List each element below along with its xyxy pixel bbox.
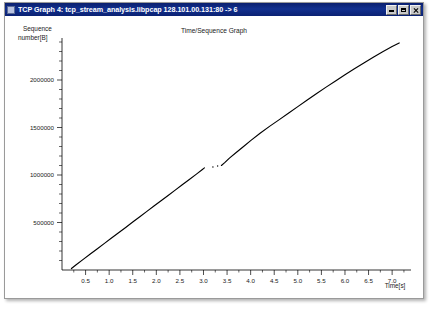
x-tick-label: 2.0 [152,277,161,284]
window-title: TCP Graph 4: tcp_stream_analysis.libpcap… [18,3,386,16]
x-axis-label: Time[s] [385,282,406,290]
minimize-button[interactable] [386,5,397,15]
y-tick-label: 2000000 [30,76,55,83]
y-tick-label: 1000000 [30,171,55,178]
x-tick-label: 2.5 [176,277,185,284]
tcp-graph-window: TCP Graph 4: tcp_stream_analysis.libpcap… [4,2,424,299]
x-axis-ticks: 0.51.01.52.02.53.03.54.04.55.05.56.06.57… [74,270,404,284]
data-trace[interactable] [71,43,399,269]
y-tick-label: 1500000 [30,124,55,131]
x-tick-label: 4.5 [270,277,279,284]
x-tick-label: 5.0 [294,277,303,284]
x-tick-label: 6.0 [341,277,350,284]
window-titlebar[interactable]: TCP Graph 4: tcp_stream_analysis.libpcap… [5,3,423,16]
x-tick-label: 3.5 [223,277,232,284]
x-tick-label: 1.0 [105,277,114,284]
graph-client-area: Time/Sequence Graph Sequence number[B] 5… [5,16,423,298]
time-sequence-graph[interactable]: Time/Sequence Graph Sequence number[B] 5… [5,16,423,298]
x-tick-label: 4.0 [246,277,255,284]
x-tick-label: 5.5 [317,277,326,284]
close-button[interactable] [410,5,421,15]
app-icon [7,6,15,14]
maximize-button[interactable] [398,5,409,15]
axis-lines [62,38,411,270]
chart-title: Time/Sequence Graph [181,27,247,35]
x-tick-label: 3.0 [199,277,208,284]
y-axis-ticks: 500000100000015000002000000 [30,42,62,261]
x-tick-label: 0.5 [81,277,90,284]
y-axis-label-line2: number[B] [18,34,48,42]
x-tick-label: 1.5 [128,277,137,284]
window-controls [386,5,421,15]
x-tick-label: 6.5 [364,277,373,284]
y-axis-label-line1: Sequence [23,25,52,33]
y-tick-label: 500000 [33,219,54,226]
